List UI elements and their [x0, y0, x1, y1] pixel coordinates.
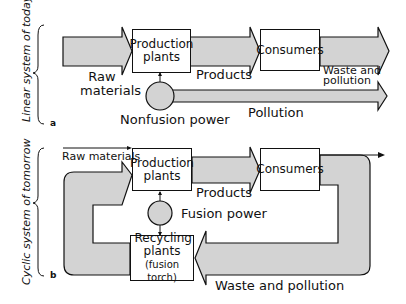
raw-materials-label: Raw materials [80, 70, 124, 98]
diagram-canvas: Linear system of today a Cyclic system o… [0, 0, 406, 304]
fusion-torch-label: (fusion torch) [131, 258, 193, 284]
raw-materials-label-b: Raw materials [62, 151, 140, 163]
consumers-label-b: Consumers [256, 163, 323, 176]
diagram-arrows [0, 0, 406, 304]
linear-system-label: Linear system of today [20, 0, 33, 122]
consumers-box-a: Consumers [260, 29, 320, 71]
products-label-b: Products [196, 187, 252, 199]
nonfusion-power-label: Nonfusion power [120, 114, 230, 126]
nonfusion-power-circle [146, 82, 174, 110]
consumers-label: Consumers [256, 44, 323, 57]
consumers-box-b: Consumers [260, 148, 320, 191]
recycle-return-arrow [64, 162, 132, 275]
waste-pollution-label: Waste and pollution [323, 66, 385, 86]
production-label: Production plants [130, 38, 194, 64]
pollution-label: Pollution [248, 107, 304, 119]
fusion-power-label: Fusion power [181, 208, 267, 220]
recycling-label: Recycling plants [135, 232, 190, 258]
cyclic-system-label: Cyclic system of tomorrow [20, 138, 33, 285]
fusion-power-circle [148, 201, 172, 225]
recycling-plants-box: Recycling plants (fusion torch) [130, 235, 194, 281]
raw-materials-arrow [63, 27, 132, 75]
production-plants-box-b: Production plants [132, 148, 192, 191]
panel-a-tag: a [50, 118, 56, 128]
production-plants-box-a: Production plants [132, 29, 191, 73]
products-label: Products [196, 69, 252, 81]
panel-b-tag: b [50, 270, 56, 280]
waste-pollution-label-b: Waste and pollution [215, 280, 344, 292]
